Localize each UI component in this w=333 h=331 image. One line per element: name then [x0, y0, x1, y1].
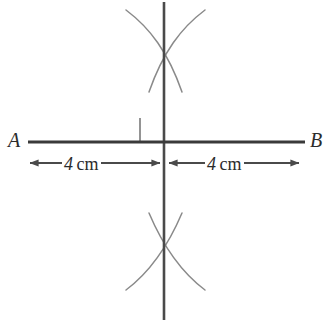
diagram-canvas: A B 4 cm 4 cm	[0, 0, 333, 331]
label-point-b: B	[310, 130, 322, 150]
right-angle-marker	[140, 118, 164, 142]
dimension-left-value: 4	[64, 154, 73, 174]
dimension-label-right: 4 cm	[205, 155, 244, 173]
dimension-label-left: 4 cm	[62, 155, 101, 173]
dimension-right-value: 4	[207, 154, 216, 174]
label-point-a: A	[8, 130, 20, 150]
dimension-right-unit: cm	[216, 154, 242, 174]
dimension-left-unit: cm	[73, 154, 99, 174]
construction-figure	[0, 0, 333, 331]
construction-arcs-top	[126, 10, 205, 92]
construction-arcs-bottom	[126, 213, 205, 290]
